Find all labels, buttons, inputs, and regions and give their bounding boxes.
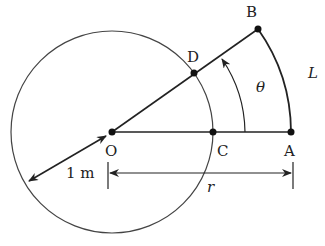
label-b: B — [246, 3, 257, 21]
point-b — [255, 26, 262, 33]
theta-arc — [222, 59, 245, 132]
geometry-diagram: O C A D B θ L r 1 m — [0, 0, 325, 246]
label-theta: θ — [256, 78, 265, 96]
label-c: C — [217, 142, 228, 160]
point-a — [288, 129, 295, 136]
point-d — [191, 70, 198, 77]
label-r: r — [207, 178, 215, 196]
point-o — [109, 129, 116, 136]
label-o: O — [105, 142, 117, 160]
point-c — [210, 129, 217, 136]
label-d: D — [187, 48, 199, 66]
label-l: L — [307, 64, 318, 82]
label-a: A — [283, 142, 295, 160]
label-1m: 1 m — [66, 164, 95, 182]
ray-ob — [112, 29, 258, 132]
